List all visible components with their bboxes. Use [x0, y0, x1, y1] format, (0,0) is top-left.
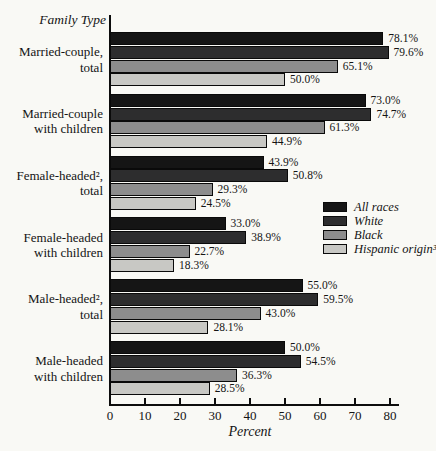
- legend-swatch: [323, 230, 347, 240]
- bar-hispanic-origin-: [110, 197, 196, 210]
- x-tick: [319, 398, 321, 404]
- x-tick-label: 10: [130, 408, 160, 423]
- category-label: Male-headedwith children: [0, 353, 103, 384]
- legend-row: White: [323, 214, 436, 228]
- legend-label: White: [354, 214, 383, 228]
- category-label: Married-couple,total: [0, 44, 103, 75]
- x-tick: [354, 398, 356, 404]
- bar-white: [110, 355, 301, 368]
- bar-black: [110, 60, 338, 73]
- bar-white: [110, 46, 389, 59]
- bar-all-races: [110, 94, 366, 107]
- legend-swatch: [323, 202, 347, 212]
- category-label: Female-headedwith children: [0, 230, 103, 261]
- x-tick-label: 70: [340, 408, 370, 423]
- legend-row: Hispanic origin³: [323, 242, 436, 256]
- legend-swatch: [323, 216, 347, 226]
- bar-all-races: [110, 32, 383, 45]
- category-label: Married-couplewith children: [0, 106, 103, 137]
- x-tick-label: 30: [200, 408, 230, 423]
- bar-value-label: 22.7%: [194, 245, 224, 258]
- bar-value-label: 38.9%: [251, 231, 281, 244]
- bar-value-label: 50.8%: [293, 169, 323, 182]
- category-label-line: Female-headed: [0, 230, 103, 246]
- bar-value-label: 18.3%: [179, 259, 209, 272]
- x-tick-label: 40: [235, 408, 265, 423]
- x-tick-label: 20: [165, 408, 195, 423]
- x-tick: [214, 398, 216, 404]
- x-axis-title: Percent: [110, 424, 390, 440]
- chart-title: Family Type: [0, 12, 106, 28]
- bar-value-label: 55.0%: [308, 279, 338, 292]
- bar-value-label: 73.0%: [371, 94, 401, 107]
- bar-hispanic-origin-: [110, 259, 174, 272]
- x-tick-label: 60: [305, 408, 335, 423]
- category-label: Female-headed²,total: [0, 168, 103, 199]
- bar-value-label: 44.9%: [272, 135, 302, 148]
- bar-value-label: 54.5%: [306, 355, 336, 368]
- legend-label: Hispanic origin³: [354, 242, 436, 256]
- category-label-line: Married-couple: [0, 106, 103, 122]
- legend: All racesWhiteBlackHispanic origin³: [323, 200, 436, 256]
- bar-value-label: 59.5%: [323, 293, 353, 306]
- legend-row: All races: [323, 200, 436, 214]
- bar-hispanic-origin-: [110, 135, 267, 148]
- x-tick: [389, 398, 391, 404]
- bar-value-label: 24.5%: [201, 197, 231, 210]
- category-label-line: Male-headed²,: [0, 291, 103, 307]
- bar-all-races: [110, 156, 264, 169]
- x-tick: [109, 398, 111, 404]
- x-tick-label: 50: [270, 408, 300, 423]
- category-label-line: with children: [0, 245, 103, 261]
- bar-value-label: 28.1%: [213, 321, 243, 334]
- bar-value-label: 29.3%: [218, 183, 248, 196]
- x-tick: [249, 398, 251, 404]
- x-tick-label: 80: [375, 408, 405, 423]
- bar-value-label: 50.0%: [290, 341, 320, 354]
- category-label-line: Married-couple,: [0, 44, 103, 60]
- bar-black: [110, 307, 261, 320]
- x-tick-label: 0: [95, 408, 125, 423]
- category-label-line: Female-headed²,: [0, 168, 103, 184]
- bar-black: [110, 121, 325, 134]
- bar-all-races: [110, 341, 285, 354]
- bar-value-label: 43.0%: [266, 307, 296, 320]
- bar-white: [110, 231, 246, 244]
- category-label-line: total: [0, 183, 103, 199]
- bar-white: [110, 169, 288, 182]
- legend-label: All races: [354, 200, 399, 214]
- bar-hispanic-origin-: [110, 73, 285, 86]
- category-label-line: Male-headed: [0, 353, 103, 369]
- bar-value-label: 33.0%: [231, 217, 261, 230]
- x-tick: [179, 398, 181, 404]
- legend-label: Black: [354, 228, 382, 242]
- bar-hispanic-origin-: [110, 382, 210, 395]
- bar-black: [110, 369, 237, 382]
- bar-value-label: 43.9%: [269, 156, 299, 169]
- bar-all-races: [110, 217, 226, 230]
- bar-white: [110, 293, 318, 306]
- family-type-bar-chart: Family Type Percent All racesWhiteBlackH…: [0, 0, 436, 451]
- category-label-line: total: [0, 307, 103, 323]
- bar-value-label: 61.3%: [330, 121, 360, 134]
- bar-value-label: 78.1%: [388, 32, 418, 45]
- bar-value-label: 50.0%: [290, 73, 320, 86]
- bar-value-label: 74.7%: [376, 108, 406, 121]
- bar-hispanic-origin-: [110, 321, 208, 334]
- category-label-line: with children: [0, 121, 103, 137]
- category-label: Male-headed²,total: [0, 291, 103, 322]
- category-label-line: with children: [0, 369, 103, 385]
- bar-value-label: 79.6%: [394, 46, 424, 59]
- bar-black: [110, 183, 213, 196]
- legend-swatch: [323, 244, 347, 254]
- bar-value-label: 28.5%: [215, 382, 245, 395]
- bar-white: [110, 108, 371, 121]
- legend-row: Black: [323, 228, 436, 242]
- category-label-line: total: [0, 60, 103, 76]
- x-tick: [284, 398, 286, 404]
- bar-all-races: [110, 279, 303, 292]
- bar-value-label: 36.3%: [242, 369, 272, 382]
- x-axis-line: [109, 404, 399, 406]
- bar-value-label: 65.1%: [343, 60, 373, 73]
- bar-black: [110, 245, 190, 258]
